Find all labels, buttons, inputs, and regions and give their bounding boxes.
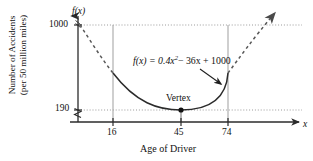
x-axis-variable-label: x bbox=[303, 120, 307, 130]
vertex-point-marker bbox=[178, 107, 183, 112]
equation-leader-arrow bbox=[200, 69, 221, 84]
plot-canvas bbox=[0, 0, 313, 161]
vertex-annotation-label: Vertex bbox=[166, 94, 191, 104]
x-axis-title: Age of Driver bbox=[140, 144, 196, 154]
parabola-dashed-left bbox=[80, 25, 113, 73]
equation-suffix: − 36x + 1000 bbox=[178, 55, 231, 66]
parabola-dashed-right bbox=[228, 14, 274, 73]
equation-prefix: f(x) = 0.4x bbox=[133, 55, 175, 66]
y-tick-label-190: 190 bbox=[55, 104, 69, 114]
x-tick-label-16: 16 bbox=[107, 128, 117, 138]
x-tick-label-74: 74 bbox=[222, 128, 232, 138]
figure-accidents-vs-age: Number of Accidents (per 50 million mile… bbox=[0, 0, 313, 161]
parabola-solid bbox=[113, 73, 228, 110]
function-equation-label: f(x) = 0.4x2− 36x + 1000 bbox=[133, 56, 231, 66]
x-tick-label-45: 45 bbox=[174, 128, 184, 138]
y-tick-label-1000: 1000 bbox=[49, 20, 68, 30]
y-axis-variable-label: f(x) bbox=[72, 7, 85, 17]
